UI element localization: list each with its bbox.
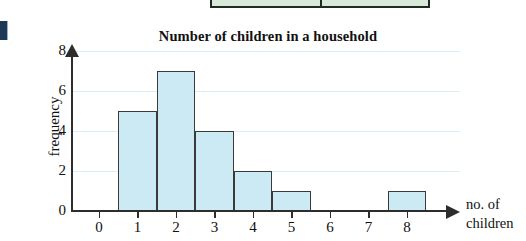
xtick-6: [330, 212, 332, 218]
xtick-label-1: 1: [126, 219, 150, 236]
gridline-y6: [72, 91, 460, 92]
xtick-label-6: 6: [318, 219, 342, 236]
gridline-y8: [72, 51, 460, 52]
plot-area: 0 2 4 6 8 0 1 2 3 4 5 6 7 8 frequency: [0, 0, 526, 241]
bar-2: [157, 71, 196, 211]
xtick-2: [176, 212, 178, 218]
xtick-label-4: 4: [241, 219, 265, 236]
x-axis-title-line-1: no. of: [466, 195, 514, 214]
xtick-0: [99, 212, 101, 218]
bar-3: [195, 131, 234, 211]
screenshot-stage: Number of children in a household 0 2 4: [0, 0, 526, 241]
y-axis-arrow-icon: [65, 44, 79, 57]
xtick-label-3: 3: [203, 219, 227, 236]
xtick-label-7: 7: [357, 219, 381, 236]
bar-1: [118, 111, 157, 211]
xtick-5: [291, 212, 293, 218]
x-axis-line: [71, 210, 448, 212]
bar-4: [234, 171, 273, 211]
xtick-label-0: 0: [87, 219, 111, 236]
xtick-7: [368, 212, 370, 218]
xtick-4: [253, 212, 255, 218]
bar-chart: Number of children in a household 0 2 4: [0, 0, 526, 241]
x-axis-title: no. of children: [466, 195, 514, 233]
xtick-3: [214, 212, 216, 218]
x-axis-arrow-icon: [446, 205, 460, 219]
xtick-label-5: 5: [280, 219, 304, 236]
ytick-label-0: 0: [44, 202, 66, 219]
bar-8: [388, 191, 427, 211]
y-axis-line: [71, 56, 73, 212]
xtick-1: [137, 212, 139, 218]
ytick-label-8: 8: [44, 42, 66, 59]
x-axis-title-line-2: children: [466, 214, 514, 233]
xtick-8: [407, 212, 409, 218]
y-axis-title: frequency: [46, 67, 63, 187]
xtick-label-8: 8: [395, 219, 419, 236]
bar-5: [272, 191, 311, 211]
xtick-label-2: 2: [164, 219, 188, 236]
